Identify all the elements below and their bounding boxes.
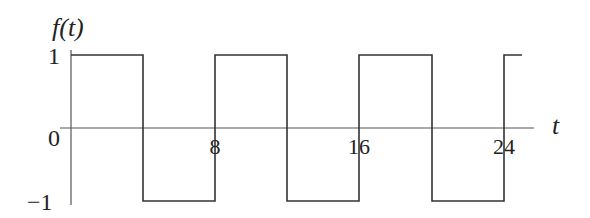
square-wave-chart: f(t) 1 0 −1 8 16 24 t bbox=[0, 0, 590, 218]
x-tick-16: 16 bbox=[348, 134, 370, 159]
y-tick-0: 0 bbox=[48, 125, 60, 151]
x-tick-24: 24 bbox=[493, 134, 515, 159]
y-tick-1: 1 bbox=[48, 43, 60, 69]
y-tick-minus-1: −1 bbox=[27, 189, 53, 215]
x-axis-label: t bbox=[552, 111, 560, 140]
y-axis-label: f(t) bbox=[52, 13, 84, 42]
x-tick-8: 8 bbox=[210, 134, 221, 159]
